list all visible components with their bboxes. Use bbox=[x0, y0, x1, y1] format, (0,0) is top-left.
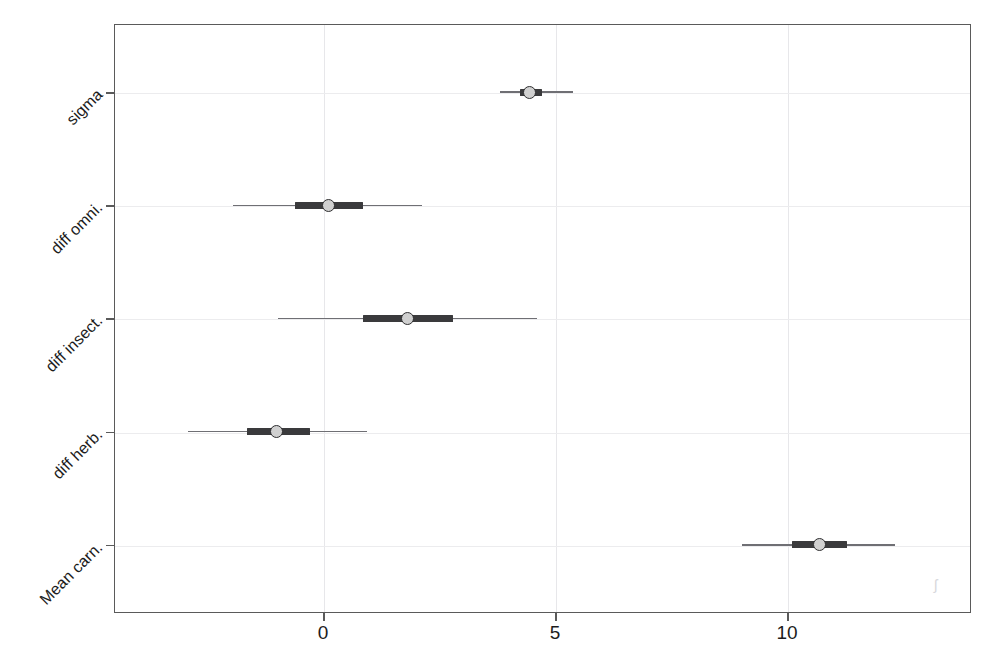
x-axis-tick bbox=[555, 613, 557, 621]
scan-smudge-artifact: ʃ bbox=[934, 576, 937, 593]
point-estimate-marker bbox=[523, 86, 536, 99]
gridline-horizontal bbox=[115, 433, 970, 434]
y-axis-tick bbox=[106, 205, 115, 207]
x-axis-tick-label: 10 bbox=[776, 622, 797, 644]
x-axis-tick bbox=[787, 613, 789, 621]
y-axis-tick-label: Mean carn. bbox=[0, 538, 106, 664]
x-axis-tick bbox=[323, 613, 325, 621]
x-axis-tick-label: 5 bbox=[550, 622, 561, 644]
gridline-horizontal bbox=[115, 206, 970, 207]
x-axis-tick-label: 0 bbox=[318, 622, 329, 644]
y-axis-tick bbox=[106, 92, 115, 94]
y-axis-tick bbox=[106, 318, 115, 320]
point-estimate-marker bbox=[322, 199, 335, 212]
interval-plot-figure: 0510sigmadiff omni.diff insect.diff herb… bbox=[0, 0, 992, 664]
gridline-horizontal bbox=[115, 93, 970, 94]
plot-area bbox=[114, 24, 971, 613]
point-estimate-marker bbox=[270, 425, 283, 438]
y-axis-tick bbox=[106, 432, 115, 434]
y-axis-tick bbox=[106, 545, 115, 547]
gridline-horizontal bbox=[115, 319, 970, 320]
